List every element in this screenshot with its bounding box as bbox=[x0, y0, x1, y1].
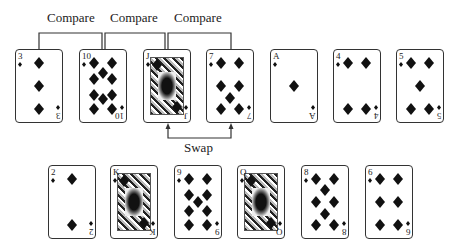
card-rank-inverted: 5 bbox=[437, 111, 442, 120]
card-rank: 7 bbox=[209, 52, 214, 61]
diamond-icon bbox=[177, 178, 181, 183]
diamond-icon bbox=[320, 184, 330, 196]
card-rank: 4 bbox=[336, 52, 341, 61]
diamond-icon bbox=[67, 219, 77, 231]
playing-card-j-of-diamonds: JJ bbox=[143, 49, 191, 123]
diamond-icon bbox=[202, 173, 212, 185]
diamond-icon bbox=[311, 196, 321, 208]
diamond-icon bbox=[361, 103, 371, 115]
card-rank: 6 bbox=[368, 168, 373, 177]
card-rank: 3 bbox=[18, 52, 23, 61]
card-rank-inverted: 8 bbox=[342, 227, 347, 236]
diamond-icon bbox=[225, 92, 235, 104]
diamond-icon bbox=[107, 73, 117, 85]
playing-card-q-of-diamonds: QQ bbox=[237, 165, 285, 239]
diamond-icon bbox=[202, 219, 212, 231]
diamond-icon bbox=[51, 178, 55, 183]
card-rank-inverted: 4 bbox=[374, 111, 379, 120]
card-rank: 9 bbox=[177, 168, 182, 177]
diamond-icon bbox=[375, 219, 385, 231]
card-rank: 5 bbox=[399, 52, 404, 61]
diamond-icon bbox=[139, 217, 149, 229]
compare-label-1: Compare bbox=[47, 10, 95, 26]
diamond-icon bbox=[247, 105, 251, 110]
diamond-icon bbox=[152, 59, 162, 71]
card-rank-inverted: 3 bbox=[56, 111, 61, 120]
card-rank-inverted: 2 bbox=[89, 227, 94, 236]
diamond-icon bbox=[107, 57, 117, 69]
playing-card-k-of-diamonds: KK bbox=[110, 165, 158, 239]
card-rank: K bbox=[113, 168, 120, 177]
playing-card-9-of-diamonds: 99 bbox=[174, 165, 222, 239]
diamond-icon bbox=[329, 196, 339, 208]
diamond-icon bbox=[216, 57, 226, 69]
diamond-icon bbox=[375, 196, 385, 208]
diamond-icon bbox=[151, 221, 155, 226]
diamond-icon bbox=[234, 80, 244, 92]
diamond-icon bbox=[215, 221, 219, 226]
card-rank-inverted: J bbox=[184, 111, 188, 120]
diamond-icon bbox=[146, 62, 150, 67]
diamond-icon bbox=[415, 80, 425, 92]
diamond-icon bbox=[184, 173, 194, 185]
card-rank-inverted: 9 bbox=[215, 227, 220, 236]
diamond-icon bbox=[424, 103, 434, 115]
diamond-icon bbox=[34, 103, 44, 115]
card-rank: A bbox=[273, 52, 280, 61]
diamond-icon bbox=[34, 80, 44, 92]
card-rank: Q bbox=[240, 168, 247, 177]
diamond-icon bbox=[89, 221, 93, 226]
diamond-icon bbox=[399, 62, 403, 67]
diamond-icon bbox=[289, 80, 299, 92]
diamond-icon bbox=[202, 189, 212, 201]
diamond-icon bbox=[273, 62, 277, 67]
diamond-icon bbox=[342, 221, 346, 226]
diamond-icon bbox=[343, 57, 353, 69]
diamond-icon bbox=[320, 208, 330, 220]
diamond-icon bbox=[246, 175, 256, 187]
diamond-icon bbox=[278, 221, 282, 226]
diamond-icon bbox=[311, 219, 321, 231]
card-rank: 10 bbox=[82, 52, 91, 61]
diamond-icon bbox=[184, 219, 194, 231]
compare-label-2: Compare bbox=[110, 10, 158, 26]
diamond-icon bbox=[184, 105, 188, 110]
card-rank-inverted: 7 bbox=[247, 111, 252, 120]
diamond-icon bbox=[56, 105, 60, 110]
diamond-icon bbox=[240, 178, 244, 183]
diamond-icon bbox=[393, 196, 403, 208]
diamond-icon bbox=[266, 217, 276, 229]
diamond-icon bbox=[374, 105, 378, 110]
diamond-icon bbox=[67, 173, 77, 185]
diamond-icon bbox=[406, 221, 410, 226]
diamond-icon bbox=[393, 219, 403, 231]
playing-card-7-of-diamonds: 77 bbox=[206, 49, 254, 123]
playing-card-6-of-diamonds: 66 bbox=[365, 165, 413, 239]
diamond-icon bbox=[329, 219, 339, 231]
card-rank-inverted: 10 bbox=[115, 111, 124, 120]
diamond-icon bbox=[172, 101, 182, 113]
diamond-icon bbox=[209, 62, 213, 67]
card-rank: 2 bbox=[51, 168, 56, 177]
diamond-icon bbox=[89, 103, 99, 115]
playing-card-8-of-diamonds: 88 bbox=[301, 165, 349, 239]
diamond-icon bbox=[113, 178, 117, 183]
diamond-icon bbox=[311, 173, 321, 185]
playing-card-10-of-diamonds: 1010 bbox=[79, 49, 127, 123]
card-rank-inverted: Q bbox=[276, 227, 283, 236]
diamond-icon bbox=[34, 57, 44, 69]
playing-card-4-of-diamonds: 44 bbox=[333, 49, 381, 123]
diamond-icon bbox=[336, 62, 340, 67]
card-rank-inverted: 6 bbox=[406, 227, 411, 236]
diamond-icon bbox=[119, 175, 129, 187]
diamond-icon bbox=[216, 103, 226, 115]
diamond-icon bbox=[234, 103, 244, 115]
diamond-icon bbox=[82, 62, 86, 67]
diamond-icon bbox=[406, 103, 416, 115]
diamond-icon bbox=[120, 105, 124, 110]
swap-label: Swap bbox=[184, 140, 213, 156]
diamond-icon bbox=[184, 205, 194, 217]
diamond-icon bbox=[424, 57, 434, 69]
card-rank-inverted: K bbox=[149, 227, 156, 236]
diamond-icon bbox=[375, 173, 385, 185]
